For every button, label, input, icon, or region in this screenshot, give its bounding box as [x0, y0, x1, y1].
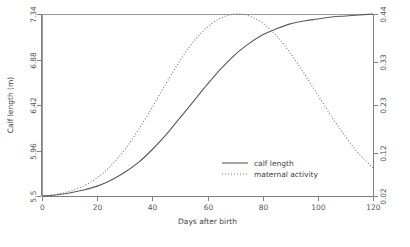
y-tick-label-right: 0.33	[379, 54, 388, 71]
series-line-maternal-activity	[42, 14, 373, 196]
x-tick-label: 40	[148, 203, 158, 212]
chart-canvas: 0204060801001205.55.966.426.887.340.020.…	[0, 0, 410, 247]
y-tick-label-right: 0.23	[379, 97, 388, 114]
x-tick-label: 0	[40, 203, 45, 212]
legend-label: maternal activity	[254, 170, 318, 179]
x-tick-label: 80	[259, 203, 269, 212]
x-tick-label: 20	[93, 203, 103, 212]
series-group	[42, 14, 373, 196]
y-tick-label-left: 7.34	[29, 6, 38, 23]
y-tick-label-right: 0.02	[379, 188, 388, 205]
y-tick-label-left: 6.42	[29, 97, 38, 114]
y-axis-title-left: Calf length (m)	[6, 77, 15, 133]
axes	[37, 14, 378, 201]
legend-label: calf length	[254, 159, 294, 168]
y-tick-label-left: 6.88	[29, 52, 38, 69]
y-tick-label-left: 5.5	[29, 190, 38, 202]
y-tick-label-right: 0.44	[379, 6, 388, 23]
x-tick-label: 100	[311, 203, 326, 212]
chart-figure: 0204060801001205.55.966.426.887.340.020.…	[0, 0, 410, 247]
x-tick-label: 60	[204, 203, 214, 212]
series-line-calf-length	[42, 14, 373, 196]
plot-frame	[43, 15, 374, 197]
y-tick-label-right: 0.12	[379, 145, 388, 162]
x-axis-title: Days after birth	[178, 217, 237, 226]
y-tick-label-left: 5.96	[29, 143, 38, 160]
chart-legend: calf lengthmaternal activity	[222, 159, 318, 179]
